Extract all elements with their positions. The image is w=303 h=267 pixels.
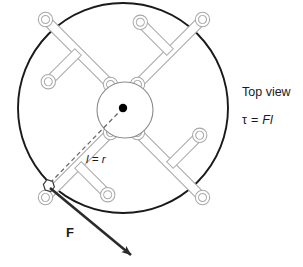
torque-expression: Fl bbox=[262, 113, 274, 127]
force-label: F bbox=[66, 225, 74, 240]
length-equals-radius-label: l = r bbox=[86, 153, 107, 165]
axle-center-dot bbox=[119, 104, 127, 112]
torque-wheel-diagram: Top view τ=Fl l = r F bbox=[0, 0, 303, 267]
torque-equals: = bbox=[251, 113, 258, 127]
figure-canvas: Top view τ=Fl l = r F bbox=[0, 0, 303, 267]
torque-formula: τ=Fl bbox=[242, 113, 274, 127]
torque-symbol: τ bbox=[242, 113, 247, 127]
top-view-label: Top view bbox=[242, 85, 292, 99]
